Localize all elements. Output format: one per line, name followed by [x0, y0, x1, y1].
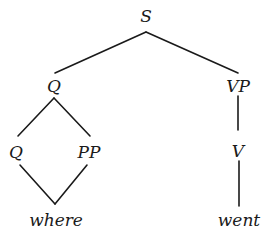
node-vp: VP: [226, 76, 250, 96]
edge-pp-where: [55, 165, 87, 204]
edge-s-vp: [146, 32, 238, 73]
node-s: S: [140, 6, 152, 26]
node-q-top: Q: [47, 76, 61, 96]
node-pp: PP: [77, 142, 101, 162]
word-went: went: [218, 210, 261, 230]
word-where: where: [29, 210, 83, 230]
edge-s-q: [55, 32, 146, 73]
node-v: V: [232, 141, 246, 161]
edge-q-pp: [54, 98, 90, 136]
edge-q-where: [20, 165, 55, 204]
node-q-child: Q: [9, 142, 23, 162]
syntax-tree-diagram: S Q VP Q PP V where went: [0, 0, 268, 239]
edge-q-q: [18, 98, 54, 136]
